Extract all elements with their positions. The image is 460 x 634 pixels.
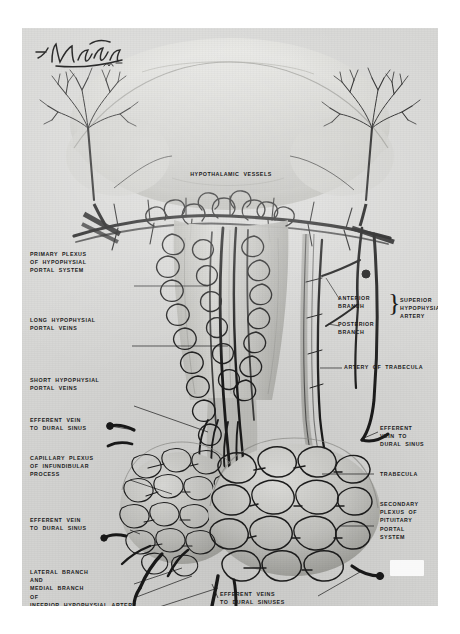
label-posterior-branch: POSTERIOR BRANCH [338, 320, 390, 336]
page-canvas: HYPOTHALAMIC VESSELS PRIMARY PLEXUS OF H… [0, 0, 460, 634]
label-hypothalamic-vessels: HYPOTHALAMIC VESSELS [146, 170, 316, 178]
anterior-branch-vessel [322, 260, 360, 276]
label-efferent-vein-to-dural-sinus-upper: EFFERENT VEIN TO DURAL SINUS [30, 416, 130, 432]
label-secondary-plexus: SECONDARY PLEXUS OF PITUITARY PORTAL SYS… [380, 500, 438, 541]
label-superior-hypophysial-artery: SUPERIOR HYPOPHYSIAL ARTERY [400, 296, 438, 321]
label-primary-plexus: PRIMARY PLEXUS OF HYPOPHYSIAL PORTAL SYS… [30, 250, 130, 275]
paper-corner-chip [390, 560, 424, 576]
artist-signature [30, 36, 150, 72]
brace-superior-hypophysial-artery: } [388, 290, 400, 316]
label-anterior-branch: ANTERIOR BRANCH [338, 294, 390, 310]
label-efferent-vein-to-dural-sinus-lower: EFFERENT VEIN TO DURAL SINUS [30, 516, 130, 532]
efferent-vein-right-vessel [362, 234, 388, 441]
label-efferent-vein-to-dural-sinus-right: EFFERENT VEIN TO DURAL SINUS [380, 424, 438, 449]
label-long-hypophysial-portal-veins: LONG HYPOPHYSIAL PORTAL VEINS [30, 316, 130, 332]
label-capillary-plexus-of-infundibular-process: CAPILLARY PLEXUS OF INFUNDIBULAR PROCESS [30, 454, 130, 479]
label-efferent-veins-to-dural-sinuses: EFFERENT VEINS TO DURAL SINUSES [220, 590, 340, 606]
illustration-plate: HYPOTHALAMIC VESSELS PRIMARY PLEXUS OF H… [22, 28, 438, 606]
label-trabecula: TRABECULA [380, 470, 438, 478]
infundibular-stem [174, 220, 289, 486]
label-artery-of-trabecula: ARTERY OF TRABECULA [344, 363, 438, 371]
label-inferior-hypophysial-artery: LATERAL BRANCH AND MEDIAL BRANCH OF INFE… [30, 568, 170, 606]
label-short-hypophysial-portal-veins: SHORT HYPOPHYSIAL PORTAL VEINS [30, 376, 130, 392]
